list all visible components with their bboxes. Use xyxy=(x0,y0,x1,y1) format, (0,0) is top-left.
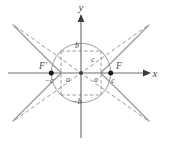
left-focus-point xyxy=(49,71,54,76)
left-focus-label: F' xyxy=(38,61,48,71)
hypotenuse-c-label: c xyxy=(91,55,95,64)
origin-point xyxy=(79,71,83,75)
pos-a-label: a xyxy=(94,75,98,84)
neg-a-label: a xyxy=(66,75,70,84)
x-axis-label: x xyxy=(152,67,158,79)
pos-b-label: b xyxy=(75,41,79,50)
hyperbola-figure: x y F' F −c c a a b −b c xyxy=(0,0,169,146)
y-axis-label: y xyxy=(78,1,84,13)
neg-c-label: −c xyxy=(45,76,54,85)
right-focus-point xyxy=(108,71,113,76)
coordinate-axes xyxy=(8,14,151,138)
pos-c-label: c xyxy=(111,76,115,85)
y-axis-arrow xyxy=(78,14,85,22)
neg-b-label: −b xyxy=(72,97,81,106)
x-axis-arrow xyxy=(143,70,151,77)
right-focus-label: F xyxy=(115,61,122,71)
